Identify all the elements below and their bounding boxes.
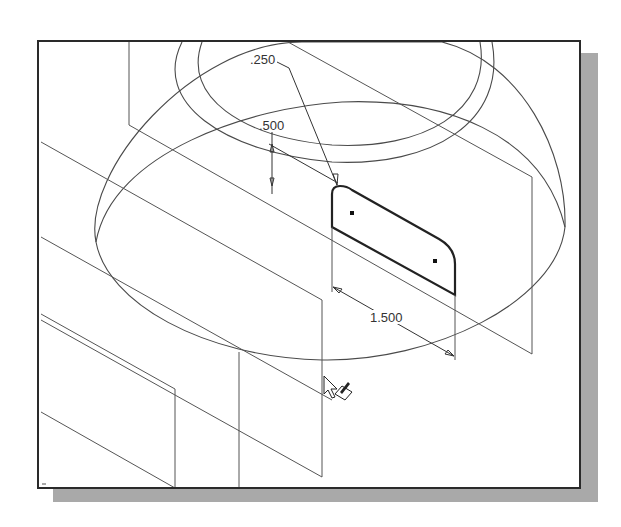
model-drawing[interactable]: .500 .250 1.500 — [39, 42, 579, 487]
left-slope-edge-4 — [41, 412, 175, 487]
left-block-edge — [129, 42, 532, 354]
dim-500-label[interactable]: .500 — [259, 118, 284, 133]
left-slope-edge-3b — [41, 320, 175, 395]
select-with-sketch-pencil-cursor-icon — [324, 376, 352, 400]
dome-outer-silhouette-lower — [96, 227, 565, 360]
sketch-profile[interactable] — [332, 186, 455, 295]
dim-1500-label[interactable]: 1.500 — [370, 310, 403, 325]
left-slope-edge-1 — [41, 142, 322, 300]
left-slope-edge-3 — [41, 314, 175, 389]
sketch-point-1[interactable] — [350, 211, 354, 215]
dim-250-arrow — [333, 174, 338, 185]
dim-250-label[interactable]: .250 — [250, 52, 275, 67]
sketch-point-2[interactable] — [433, 259, 437, 263]
left-slope-edge-5 — [175, 395, 322, 477]
left-slope-edge-2 — [41, 237, 332, 400]
dome-equator-arc — [96, 102, 565, 242]
upper-diagonal-edge — [288, 42, 532, 177]
cad-graphics-viewport[interactable]: .500 .250 1.500 — [37, 40, 581, 489]
inner-ring-inner — [198, 42, 481, 145]
dim-250-leader — [277, 62, 337, 185]
